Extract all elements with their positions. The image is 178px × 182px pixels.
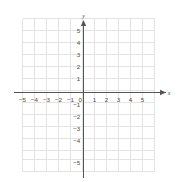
- x-axis-arrowhead-icon: [160, 90, 166, 95]
- y-tick-label: 3: [77, 51, 81, 58]
- x-axis-label: x: [167, 90, 171, 96]
- y-tick-label: 4: [77, 39, 81, 46]
- coordinate-grid-svg: −5 −4 −3 −2 −1 0 1 2 3 4 5 5 4 3 2 1 −1 …: [0, 0, 178, 182]
- x-axis-tick-labels: −5 −4 −3 −2 −1 0 1 2 3 4 5: [19, 96, 145, 103]
- y-tick-label: −4: [73, 137, 81, 144]
- y-axis-label: y: [81, 13, 85, 19]
- x-tick-label: 5: [141, 96, 145, 103]
- y-tick-label: 5: [77, 27, 81, 34]
- x-tick-label: −5: [19, 96, 27, 103]
- y-tick-label: 2: [77, 63, 81, 70]
- y-axis-arrowhead-icon: [81, 20, 86, 26]
- x-tick-label: −2: [55, 96, 63, 103]
- x-tick-label: 4: [129, 96, 133, 103]
- x-tick-label: 2: [105, 96, 109, 103]
- x-tick-label: 3: [117, 96, 121, 103]
- y-tick-label: 1: [77, 75, 81, 82]
- y-tick-label: −2: [73, 113, 81, 120]
- coordinate-plane-graph: −5 −4 −3 −2 −1 0 1 2 3 4 5 5 4 3 2 1 −1 …: [0, 0, 178, 182]
- x-tick-label: −3: [43, 96, 51, 103]
- x-tick-label: −4: [31, 96, 39, 103]
- x-tick-label: 1: [93, 96, 97, 103]
- y-tick-label: −5: [73, 159, 81, 166]
- y-tick-label: −1: [73, 101, 81, 108]
- y-tick-label: −3: [73, 125, 81, 132]
